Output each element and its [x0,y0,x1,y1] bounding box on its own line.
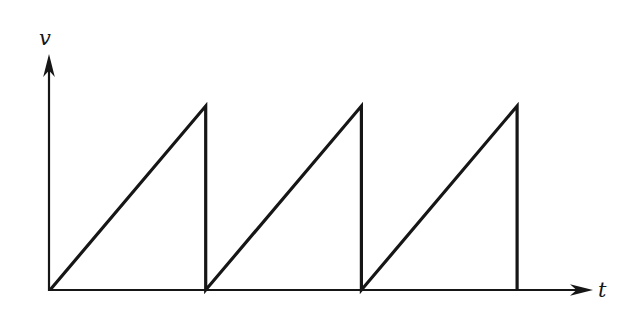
x-axis [49,284,593,296]
sawtooth-trace [50,106,517,290]
y-axis-label: v [39,26,51,50]
sawtooth-waveform-figure: v t [0,0,638,319]
x-axis-label: t [598,278,607,302]
y-axis [43,54,55,291]
waveform-plot: v t [0,0,638,319]
